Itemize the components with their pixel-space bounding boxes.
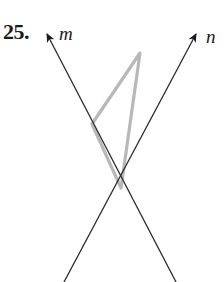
line-label-n: n <box>206 27 216 46</box>
problem-number: 25. <box>3 21 29 43</box>
line-n <box>64 34 196 282</box>
lines-diagram <box>0 0 224 282</box>
geometry-figure: 25. m n <box>0 0 224 282</box>
line-m <box>47 34 176 282</box>
line-label-m: m <box>59 24 73 43</box>
